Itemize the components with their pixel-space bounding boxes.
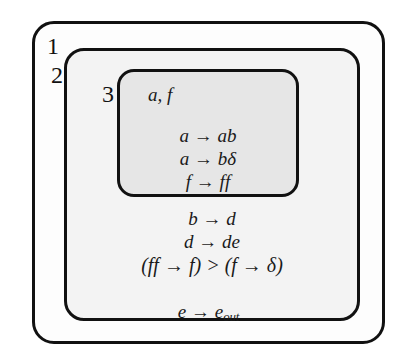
membrane-region-1: 1 2 3 a, f a → ab a → bδ f → ff b → d d …: [32, 21, 385, 344]
membrane-3-rules: a → ab a → bδ f → ff: [120, 124, 296, 193]
membrane-1-rules: e → eout: [35, 300, 382, 328]
membrane-label-2: 2: [51, 63, 63, 87]
membrane-region-3: 3 a, f a → ab a → bδ f → ff: [117, 69, 299, 197]
rule-line-priority: (ff → f) > (f → δ): [67, 253, 357, 278]
rule-line: f → ff: [120, 170, 296, 193]
membrane-diagram: 1 2 3 a, f a → ab a → bδ f → ff b → d d …: [0, 0, 404, 360]
membrane-label-1: 1: [47, 34, 59, 58]
rule-output-text: e → e: [178, 301, 223, 322]
rule-line: a → ab: [120, 124, 296, 147]
membrane-2-rules: b → d d → de (ff → f) > (f → δ): [67, 207, 357, 278]
membrane-label-3: 3: [102, 82, 114, 106]
rule-line: b → d: [67, 207, 357, 230]
membrane-3-objects: a, f: [148, 84, 172, 106]
rule-output-subscript: out: [223, 309, 239, 324]
rule-line: a → bδ: [120, 147, 296, 170]
membrane-region-2: 2 3 a, f a → ab a → bδ f → ff b → d d → …: [64, 48, 360, 321]
rule-line: d → de: [67, 230, 357, 253]
rule-line-output: e → eout: [35, 300, 382, 328]
